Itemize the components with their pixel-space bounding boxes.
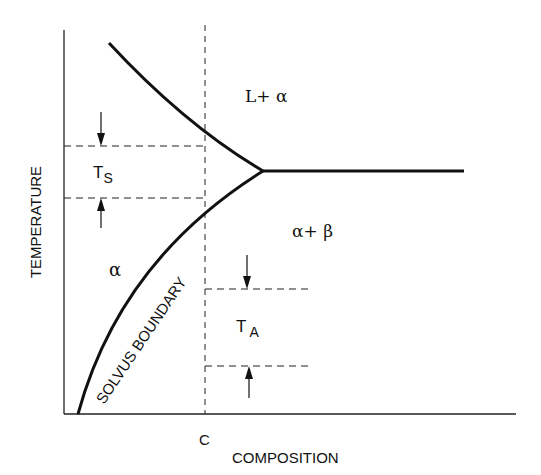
ta-up-arrow-icon <box>245 366 253 398</box>
ta-label: TA <box>236 317 259 340</box>
ta-down-arrow-icon <box>243 255 251 289</box>
liquidus-curve <box>109 43 263 171</box>
y-axis-label: TEMPERATURE <box>27 166 44 278</box>
region-liquid-alpha: L+ α <box>245 86 288 106</box>
x-tick-c: C <box>199 431 210 448</box>
ts-label: TS <box>93 163 113 186</box>
region-alpha: α <box>109 259 121 280</box>
ts-down-arrow-icon <box>97 112 105 146</box>
ts-up-arrow-icon <box>97 198 105 228</box>
region-alpha-beta: α+ β <box>292 221 333 241</box>
x-axis-label: COMPOSITION <box>232 449 339 466</box>
phase-diagram: TS TA L+ α α+ β α SOLVUS BOUNDARY C COMP… <box>0 0 541 475</box>
